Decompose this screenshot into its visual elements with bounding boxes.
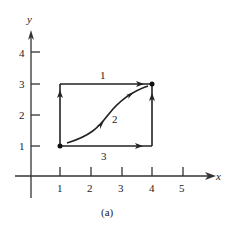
path-1-label: 1 bbox=[100, 69, 106, 81]
y-tick-label: 4 bbox=[19, 47, 25, 59]
path-2-label: 2 bbox=[112, 113, 118, 125]
y-tick-label: 3 bbox=[19, 78, 25, 90]
start-point bbox=[58, 144, 63, 149]
path-diagram: y x 1 2 3 4 1 2 3 4 5 1 2 3 (a) bbox=[0, 0, 234, 232]
path-2 bbox=[67, 86, 148, 143]
x-axis-label: x bbox=[215, 170, 221, 182]
x-tick-label: 3 bbox=[118, 182, 124, 194]
x-axis bbox=[15, 167, 216, 180]
arrow-icon bbox=[97, 121, 104, 129]
path-3 bbox=[60, 85, 155, 149]
x-tick-label: 2 bbox=[87, 182, 93, 194]
end-point bbox=[150, 82, 155, 87]
x-tick-label: 4 bbox=[149, 182, 155, 194]
path-3-label: 3 bbox=[101, 150, 107, 162]
x-tick-label: 5 bbox=[179, 182, 185, 194]
figure-caption: (a) bbox=[101, 206, 114, 219]
y-tick-label: 2 bbox=[19, 109, 25, 121]
y-axis-label: y bbox=[26, 13, 32, 25]
y-axis bbox=[28, 30, 40, 198]
y-tick-label: 1 bbox=[19, 140, 25, 152]
x-tick-label: 1 bbox=[57, 182, 63, 194]
